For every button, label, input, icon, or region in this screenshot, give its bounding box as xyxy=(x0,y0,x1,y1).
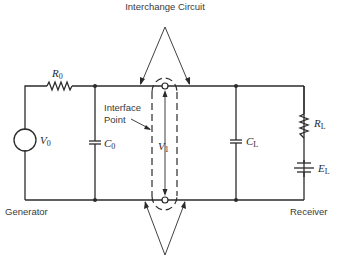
interchange-bottom-arrows xyxy=(144,201,186,255)
label-v0: V0 xyxy=(40,134,51,148)
label-cl: CL xyxy=(246,135,258,149)
capacitor-c0-icon xyxy=(89,141,101,144)
label-el: EL xyxy=(317,162,330,176)
resistor-r0-icon xyxy=(47,82,72,90)
diagram-title: Interchange Circuit xyxy=(125,1,205,12)
interchange-circuit-diagram: Interchange Circuit R0 V0 C0 CL xyxy=(0,0,338,261)
generator-label: Generator xyxy=(5,206,48,217)
label-c0: C0 xyxy=(104,137,115,151)
receiver-label: Receiver xyxy=(290,206,328,217)
terminal-bottom-icon xyxy=(162,197,168,203)
label-r0: R0 xyxy=(51,67,63,81)
label-rl: RL xyxy=(313,117,326,131)
voltage-source-v0-icon xyxy=(14,129,36,151)
interface-point-leader-arrow xyxy=(131,119,151,130)
label-v1: V1 xyxy=(158,140,169,154)
capacitor-cl-icon xyxy=(230,140,242,143)
interchange-top-arrows xyxy=(140,27,190,85)
interface-point-label-line2: Point xyxy=(104,114,126,125)
interface-point-label-line1: Interface xyxy=(104,102,141,113)
terminal-top-icon xyxy=(162,83,168,89)
